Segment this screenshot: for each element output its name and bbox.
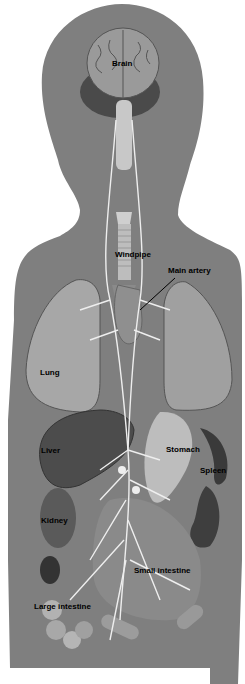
label-large-intestine: Large intestine	[34, 603, 91, 611]
label-brain: Brain	[112, 60, 132, 68]
label-small-intestine: Small intestine	[134, 567, 190, 575]
body-illustration	[0, 0, 245, 684]
label-kidney: Kidney	[41, 517, 68, 525]
label-windpipe: Windpipe	[115, 251, 151, 259]
nerve-ganglion	[118, 466, 126, 474]
label-main-artery: Main artery	[168, 267, 211, 275]
label-stomach: Stomach	[166, 446, 200, 454]
nerve-ganglion	[132, 486, 140, 494]
label-spleen: Spleen	[200, 467, 226, 475]
label-liver: Liver	[41, 447, 60, 455]
anatomy-diagram: Brain Windpipe Main artery Lung Liver St…	[0, 0, 245, 684]
label-lung: Lung	[40, 369, 60, 377]
